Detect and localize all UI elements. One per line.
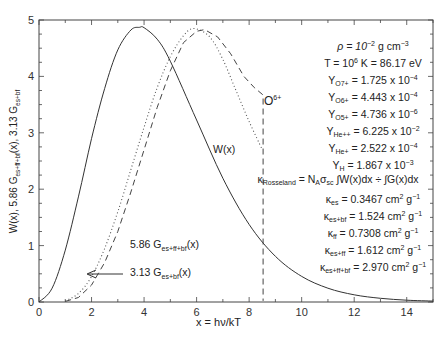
param-kappa-rosseland: κRosseland = NAσsc ∫W(x)dx ÷ ∫G(x)dx — [228, 171, 447, 188]
param-kappa-ff: κff = 0.7308 cm2 g−1 — [298, 222, 447, 239]
svg-text:14: 14 — [401, 306, 413, 318]
param-kappa-es-ff-bf: κes+ff+bf = 2.970 cm2 g−1 — [298, 256, 447, 273]
g-es-ff-bf-annotation: 5.86 Ges+ff+bf(x) — [130, 238, 199, 252]
g-es-bf-curve — [65, 30, 263, 302]
g-es-bf-annotation: 3.13 Ges+bf(x) — [130, 266, 191, 280]
y-axis-label: W(x), 5.86 Ges+ff+bf(x), 3.13 Ges+bf — [8, 62, 21, 262]
param-y-hepp: YHe++ = 6.225 x 10−2 — [298, 120, 447, 137]
svg-text:0: 0 — [28, 296, 34, 308]
svg-text:0: 0 — [36, 306, 42, 318]
parameter-block: ρ = 10−2 g cm−3 T = 106 K = 86.17 eV YO7… — [298, 35, 447, 273]
svg-text:2: 2 — [28, 183, 34, 195]
param-y-h: YH = 1.867 x 10−3 — [298, 154, 447, 171]
svg-text:12: 12 — [348, 306, 360, 318]
x-axis-label: x = hν/kT — [196, 316, 241, 328]
param-y-hep: YHe+ = 2.522 x 10−4 — [298, 137, 447, 154]
o6-annotation: O6+ — [264, 94, 281, 108]
svg-text:4: 4 — [28, 70, 34, 82]
svg-text:3: 3 — [28, 127, 34, 139]
param-rho: ρ = 10−2 g cm−3 — [298, 35, 447, 52]
param-kappa-es: κes = 0.3467 cm2 g−1 — [298, 188, 447, 205]
g-es-ff-bf-curve — [65, 28, 262, 300]
param-y-o5: YO5+ = 4.736 x 10−6 — [298, 103, 447, 120]
svg-text:5: 5 — [28, 14, 34, 26]
svg-text:10: 10 — [296, 306, 308, 318]
svg-text:8: 8 — [246, 306, 252, 318]
svg-text:1: 1 — [28, 240, 34, 252]
param-temperature: T = 106 K = 86.17 eV — [298, 52, 447, 69]
param-kappa-es-bf: κes+bf = 1.524 cm2 g−1 — [298, 205, 447, 222]
param-y-o6: YO6+ = 4.443 x 10−4 — [298, 86, 447, 103]
w-annotation: W(x) — [213, 143, 235, 155]
param-kappa-es-ff: κes+ff = 1.612 cm2 g−1 — [298, 239, 447, 256]
svg-text:2: 2 — [88, 306, 94, 318]
param-y-o7: YO7+ = 1.725 x 10−4 — [298, 69, 447, 86]
svg-text:4: 4 — [141, 306, 147, 318]
